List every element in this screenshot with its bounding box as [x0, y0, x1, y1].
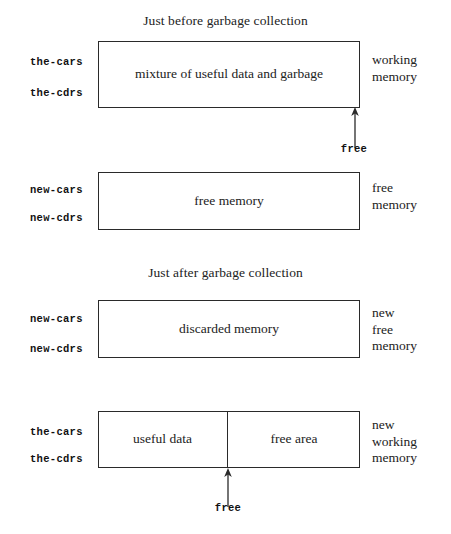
side-label-line-1: free: [372, 180, 417, 197]
pointer-label-new-cdrs-2: new-cdrs: [30, 343, 83, 355]
side-label-line-2: memory: [372, 197, 417, 214]
pointer-label-the-cars-2: the-cars: [30, 426, 83, 438]
side-label-line-1: new: [372, 305, 417, 322]
memory-box-label-after-discarded: discarded memory: [98, 321, 360, 337]
pointer-label-the-cars-1: the-cars: [30, 56, 83, 68]
side-label-line-2: memory: [372, 69, 417, 86]
free-pointer-label-2: free: [188, 502, 268, 514]
side-label-line-1: new: [372, 417, 417, 434]
side-label-new-working-memory: new working memory: [372, 417, 417, 467]
pointer-label-new-cars-2: new-cars: [30, 313, 83, 325]
side-label-line-3: memory: [372, 338, 417, 355]
side-label-line-2: free: [372, 322, 417, 339]
side-label-line-3: memory: [372, 450, 417, 467]
diagram-canvas: Just before garbage collection mixture o…: [0, 0, 451, 534]
pointer-label-new-cars-1: new-cars: [30, 184, 83, 196]
side-label-new-free-memory: new free memory: [372, 305, 417, 355]
caption-before-gc: Just before garbage collection: [0, 13, 451, 29]
memory-box-label-before-working: mixture of useful data and garbage: [98, 66, 360, 82]
free-pointer-label-1: free: [314, 143, 394, 155]
side-label-free-memory: free memory: [372, 180, 417, 213]
pointer-label-new-cdrs-1: new-cdrs: [30, 212, 83, 224]
side-label-line-2: working: [372, 434, 417, 451]
memory-box-label-before-free: free memory: [98, 193, 360, 209]
caption-after-gc: Just after garbage collection: [0, 265, 451, 281]
side-label-working-memory: working memory: [372, 52, 417, 85]
memory-box-label-free-area: free area: [228, 431, 360, 447]
pointer-label-the-cdrs-1: the-cdrs: [30, 87, 83, 99]
side-label-line-1: working: [372, 52, 417, 69]
memory-box-label-useful-data: useful data: [98, 431, 227, 447]
pointer-label-the-cdrs-2: the-cdrs: [30, 453, 83, 465]
